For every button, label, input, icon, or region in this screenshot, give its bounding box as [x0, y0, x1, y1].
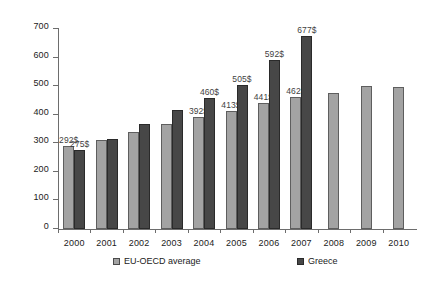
x-axis-tick-label: 2003 [161, 238, 182, 248]
x-axis-tick-label: 2007 [291, 238, 312, 248]
y-axis-tick: 500 [53, 85, 58, 86]
y-axis-tick-label: 0 [44, 221, 49, 231]
legend-swatch-icon [113, 258, 120, 265]
x-axis-tick [285, 229, 286, 233]
y-axis-tick-label: 600 [33, 50, 49, 60]
bar-eu-oecd-average-2007 [290, 97, 301, 229]
bar-greece-2005 [237, 85, 248, 229]
y-axis-tick: 100 [53, 199, 58, 200]
x-axis-tick-label: 2009 [356, 238, 377, 248]
x-axis-tick [383, 229, 384, 233]
x-axis-tick-label: 2005 [226, 238, 247, 248]
bar-value-label: 460$ [200, 87, 219, 97]
legend-item-greece[interactable]: Greece [297, 256, 338, 266]
y-axis-tick-label: 400 [33, 107, 49, 117]
bar-greece-2006 [269, 60, 280, 229]
x-axis-tick-label: 2004 [194, 238, 215, 248]
bar-eu-oecd-average-2010 [393, 87, 404, 229]
bar-greece-2001 [107, 139, 118, 229]
legend-item-label: EU-OECD average [124, 256, 201, 266]
y-axis-tick-label: 700 [33, 21, 49, 31]
bar-greece-2004 [204, 98, 215, 229]
y-axis-tick: 700 [53, 28, 58, 29]
y-axis-tick-label: 500 [33, 78, 49, 88]
x-axis-line [58, 229, 417, 230]
x-axis-tick-label: 2008 [323, 238, 344, 248]
bar-value-label: 592$ [265, 49, 284, 59]
bar-value-label: 677$ [297, 25, 316, 35]
y-axis-tick-label: 300 [33, 135, 49, 145]
bar-greece-2007 [301, 36, 312, 229]
x-axis-tick [318, 229, 319, 233]
x-axis-tick-label: 2001 [96, 238, 117, 248]
bar-eu-oecd-average-2002 [128, 132, 139, 229]
bar-eu-oecd-average-2006 [258, 103, 269, 229]
y-axis-tick: 200 [53, 171, 58, 172]
bar-eu-oecd-average-2003 [161, 124, 172, 229]
x-axis-tick [123, 229, 124, 233]
bar-eu-oecd-average-2004 [193, 117, 204, 229]
x-axis-tick [188, 229, 189, 233]
x-axis-tick [155, 229, 156, 233]
legend-item-eu-oecd-average[interactable]: EU-OECD average [113, 256, 201, 266]
bar-eu-oecd-average-2008 [328, 93, 339, 229]
bar-greece-2000 [74, 150, 85, 229]
bar-eu-oecd-average-2000 [63, 146, 74, 229]
bar-greece-2003 [172, 110, 183, 229]
legend-swatch-icon [297, 258, 304, 265]
y-axis-tick-label: 200 [33, 164, 49, 174]
x-axis-tick [350, 229, 351, 233]
y-axis-tick-label: 100 [33, 192, 49, 202]
x-axis-tick [253, 229, 254, 233]
bar-eu-oecd-average-2009 [361, 86, 372, 229]
x-axis-tick-label: 2006 [259, 238, 280, 248]
bar-chart: 01002003004005006007002000292$275$200120… [0, 0, 439, 288]
y-axis-tick: 400 [53, 114, 58, 115]
plot-area: 01002003004005006007002000292$275$200120… [58, 29, 415, 229]
bar-value-label: 505$ [232, 74, 251, 84]
legend-item-label: Greece [308, 256, 338, 266]
x-axis-tick [58, 229, 59, 233]
x-axis-tick-label: 2002 [129, 238, 150, 248]
bar-value-label: 275$ [70, 139, 89, 149]
bar-eu-oecd-average-2001 [96, 140, 107, 229]
x-axis-tick [90, 229, 91, 233]
x-axis-tick-label: 2010 [388, 238, 409, 248]
chart-legend: EU-OECD averageGreece [0, 252, 439, 272]
x-axis-tick-label: 2000 [64, 238, 85, 248]
y-axis-tick: 600 [53, 57, 58, 58]
y-axis-tick: 300 [53, 142, 58, 143]
bar-greece-2002 [139, 124, 150, 229]
x-axis-tick [220, 229, 221, 233]
bar-eu-oecd-average-2005 [226, 111, 237, 229]
